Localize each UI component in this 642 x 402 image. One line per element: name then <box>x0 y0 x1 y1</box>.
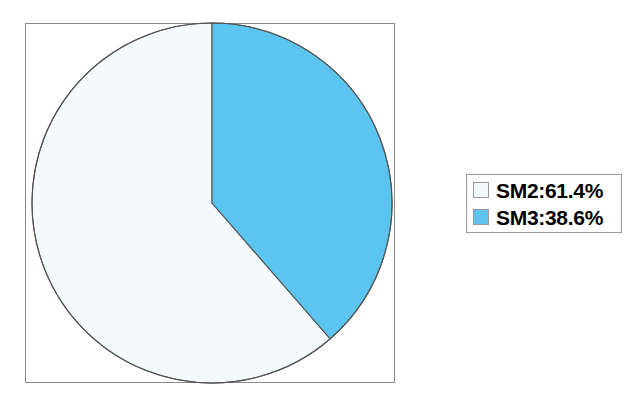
pie-chart <box>25 23 395 383</box>
legend-label-sm2: SM2:61.4% <box>496 180 603 201</box>
legend-row-sm3[interactable]: SM3:38.6% <box>473 204 621 231</box>
legend-label-sm3: SM3:38.6% <box>496 207 603 228</box>
legend-row-sm2[interactable]: SM2:61.4% <box>473 177 621 204</box>
pie-slices <box>32 23 392 383</box>
legend: SM2:61.4% SM3:38.6% <box>466 174 622 233</box>
legend-swatch-sm3 <box>473 209 489 225</box>
chart-canvas: SM2:61.4% SM3:38.6% <box>0 0 642 402</box>
legend-swatch-sm2 <box>473 182 489 198</box>
